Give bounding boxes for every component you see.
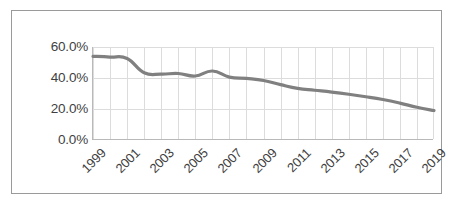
plot-area bbox=[92, 47, 433, 140]
series-line-rate bbox=[93, 47, 434, 140]
y-axis-tick-label: 0.0% bbox=[16, 133, 88, 147]
x-axis-tick-label: 2005 bbox=[181, 146, 210, 175]
x-axis-tick-label: 2017 bbox=[386, 146, 415, 175]
y-axis-labels: 0.0%20.0%40.0%60.0% bbox=[12, 11, 88, 195]
x-axis-tick-label: 2019 bbox=[419, 146, 448, 175]
y-axis-tick-label: 60.0% bbox=[16, 40, 88, 54]
x-axis-tick-label: 2009 bbox=[250, 146, 279, 175]
series-path bbox=[93, 56, 434, 110]
y-axis-tick-label: 20.0% bbox=[16, 102, 88, 116]
x-axis-labels: 1999200120032005200720092011201320152017… bbox=[92, 140, 433, 195]
x-axis-tick-label: 2015 bbox=[352, 146, 381, 175]
chart-figure: 0.0%20.0%40.0%60.0% 19992001200320052007… bbox=[0, 0, 458, 205]
y-axis-tick-label: 40.0% bbox=[16, 71, 88, 85]
x-axis-tick-label: 2013 bbox=[318, 146, 347, 175]
x-axis-tick-label: 2007 bbox=[216, 146, 245, 175]
x-axis-tick-label: 2011 bbox=[284, 146, 312, 174]
x-axis-tick-label: 2003 bbox=[147, 146, 176, 175]
x-axis-tick-label: 2001 bbox=[113, 146, 142, 175]
chart-frame: 0.0%20.0%40.0%60.0% 19992001200320052007… bbox=[11, 10, 442, 194]
